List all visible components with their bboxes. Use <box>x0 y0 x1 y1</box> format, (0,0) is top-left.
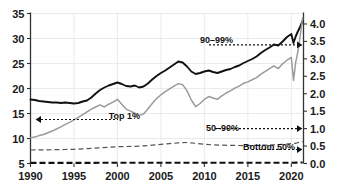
annotation-arrowhead <box>36 116 41 123</box>
annotation-50-90: 50–90% <box>206 123 302 133</box>
tick-labels-layer: 51015202530350.00.51.01.52.02.53.03.54.0… <box>12 8 325 182</box>
left-axis-tick-label: 30 <box>12 33 24 45</box>
x-axis-tick-label: 2015 <box>236 170 260 182</box>
annotation-label: 50–90% <box>206 123 239 133</box>
gridlines-layer <box>31 14 304 164</box>
left-axis-tick-label: 35 <box>12 8 24 20</box>
right-axis-tick-label: 2.0 <box>310 88 325 100</box>
x-axis-tick-label: 1995 <box>62 170 86 182</box>
right-axis-tick-label: 0.0 <box>310 158 325 170</box>
left-axis-tick-label: 5 <box>18 158 24 170</box>
x-axis-tick-label: 2000 <box>105 170 129 182</box>
annotation-arrowhead <box>297 125 302 132</box>
annotation-top-1: Top 1% <box>36 111 140 123</box>
line-chart: 90–99%Top 1%50–90%Bottom 50% 51015202530… <box>0 0 345 190</box>
x-axis-tick-label: 2005 <box>149 170 173 182</box>
left-axis-tick-label: 10 <box>12 133 24 145</box>
left-axis-tick-label: 15 <box>12 108 24 120</box>
right-axis-tick-label: 3.0 <box>310 53 325 65</box>
annotation-bottom-50: Bottom 50% <box>243 142 302 153</box>
right-axis-tick-label: 0.5 <box>310 140 325 152</box>
x-axis-tick-label: 2020 <box>279 170 303 182</box>
annotation-arrowhead <box>297 146 302 153</box>
left-axis-tick-label: 20 <box>12 83 24 95</box>
right-axis-tick-label: 1.5 <box>310 105 325 117</box>
right-axis-tick-label: 4.0 <box>310 18 325 30</box>
right-axis-tick-label: 2.5 <box>310 70 325 82</box>
series-line-90-99 <box>31 18 303 138</box>
annotation-label: 90–99% <box>200 35 233 45</box>
left-axis-tick-label: 25 <box>12 58 24 70</box>
chart-container: 90–99%Top 1%50–90%Bottom 50% 51015202530… <box>0 0 345 190</box>
annotation-label: Bottom 50% <box>243 142 295 152</box>
right-axis-tick-label: 1.0 <box>310 123 325 135</box>
right-axis-tick-label: 3.5 <box>310 35 325 47</box>
x-axis-tick-label: 2010 <box>192 170 216 182</box>
x-axis-tick-label: 1990 <box>18 170 42 182</box>
